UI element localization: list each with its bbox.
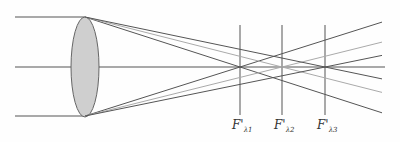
focal-label-lambda1: F'λ1 — [232, 118, 253, 134]
focal-label-sub: λ3 — [329, 126, 338, 134]
focal-label-main: F' — [274, 118, 286, 132]
focal-label-sub: λ1 — [244, 126, 253, 134]
focal-label-main: F' — [232, 118, 244, 132]
lens-diagram: F'λ1 F'λ2 F'λ3 — [0, 0, 400, 142]
refracted-ray-top-lambda3 — [85, 17, 382, 79]
lens — [71, 17, 99, 117]
refracted-ray-bottom-lambda2 — [85, 42, 382, 116]
refracted-ray-top-lambda2 — [85, 17, 382, 92]
focal-label-sub: λ2 — [286, 126, 295, 134]
focal-label-lambda3: F'λ3 — [317, 118, 338, 134]
diagram-svg — [0, 0, 400, 142]
focal-label-main: F' — [317, 118, 329, 132]
refracted-ray-bottom-lambda1 — [85, 22, 382, 116]
focal-label-lambda2: F'λ2 — [274, 118, 295, 134]
